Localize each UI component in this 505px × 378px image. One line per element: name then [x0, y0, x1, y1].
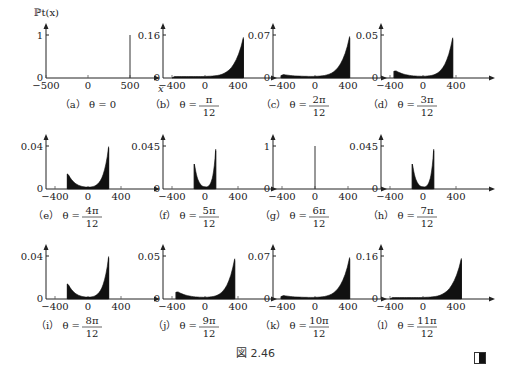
probability-distribution — [67, 147, 108, 189]
y-tick-label: 0 — [37, 293, 43, 304]
theta-numerator: 2π — [313, 94, 326, 105]
theta-numerator: 10π — [309, 315, 329, 326]
y-axis-arrow-icon — [271, 23, 276, 29]
y-axis-arrow-icon — [271, 134, 276, 140]
x-tick-label: 400 — [228, 191, 247, 202]
x-axis-arrow-icon — [489, 187, 495, 192]
theta-denominator: 12 — [86, 328, 99, 339]
panel-caption: （c） θ = — [261, 99, 307, 110]
panel-caption: （b） θ = — [150, 99, 197, 110]
y-tick-label: 0 — [264, 183, 270, 194]
panel-caption: （l） θ = — [371, 320, 415, 331]
y-tick-label: 0.07 — [248, 251, 270, 262]
x-tick-label: −400 — [376, 301, 403, 312]
x-tick-label: −400 — [158, 301, 185, 312]
x-tick-label: 0 — [202, 301, 208, 312]
probability-distribution — [194, 149, 215, 189]
y-tick-label: 0 — [264, 293, 270, 304]
figure-canvas: −500050001（a） θ = 0−400040000.16（b） θ =π… — [0, 0, 505, 378]
theta-denominator: 12 — [86, 218, 99, 229]
theta-denominator: 12 — [421, 107, 434, 118]
x-tick-label: 0 — [420, 301, 426, 312]
theta-denominator: 12 — [203, 107, 216, 118]
panel-caption: （g） θ = — [260, 210, 307, 221]
y-axis-arrow-icon — [44, 23, 49, 29]
theta-denominator: 12 — [313, 328, 326, 339]
theta-numerator: 8π — [86, 315, 99, 326]
y-tick-label: 0.045 — [349, 141, 378, 152]
y-tick-label: 0 — [372, 293, 378, 304]
panel-caption: （j） θ = — [153, 320, 197, 331]
panel-h: −400040000.045（h） θ =7π12 — [349, 134, 495, 229]
y-axis-arrow-icon — [161, 244, 166, 250]
probability-distribution — [281, 37, 349, 78]
panel-caption: （a） θ = 0 — [60, 99, 116, 110]
probability-distribution — [172, 38, 243, 79]
y-axis-arrow-icon — [379, 134, 384, 140]
y-axis-arrow-icon — [44, 244, 49, 250]
x-tick-label: −400 — [158, 191, 185, 202]
x-tick-label: 0 — [85, 191, 91, 202]
x-tick-label: −400 — [41, 191, 68, 202]
y-tick-label: 0 — [372, 183, 378, 194]
theta-numerator: 4π — [86, 205, 99, 216]
x-tick-label: 0 — [202, 191, 208, 202]
y-tick-label: 0.04 — [21, 141, 43, 152]
y-axis-arrow-icon — [271, 244, 276, 250]
y-tick-label: 0 — [37, 183, 43, 194]
panel-caption: （h） θ = — [368, 210, 415, 221]
panel-caption: （d） θ = — [368, 99, 415, 110]
y-tick-label: 0.07 — [248, 30, 270, 41]
x-tick-label: 400 — [111, 191, 130, 202]
end-of-section-icon — [474, 352, 486, 364]
panel-l: −400040000.16（l） θ =11π12 — [356, 244, 495, 339]
x-axis-arrow-icon — [489, 297, 495, 302]
y-tick-label: 0.05 — [138, 251, 160, 262]
y-axis-label: ℙt(x) — [34, 7, 59, 18]
y-tick-label: 0.04 — [21, 251, 43, 262]
panel-caption: （i） θ = — [36, 320, 80, 331]
x-tick-label: −400 — [268, 191, 295, 202]
x-tick-label: 0 — [420, 80, 426, 91]
y-tick-label: 0.05 — [356, 30, 378, 41]
theta-denominator: 12 — [203, 218, 216, 229]
x-tick-label: −400 — [376, 191, 403, 202]
y-axis-arrow-icon — [44, 134, 49, 140]
probability-distribution — [281, 258, 349, 299]
theta-numerator: 6π — [313, 205, 326, 216]
theta-denominator: 12 — [203, 328, 216, 339]
x-tick-label: 400 — [446, 191, 465, 202]
theta-numerator: 9π — [203, 315, 216, 326]
y-tick-label: 0 — [372, 72, 378, 83]
panel-caption: （k） θ = — [260, 320, 307, 331]
y-axis-arrow-icon — [161, 23, 166, 29]
x-tick-label: −400 — [268, 80, 295, 91]
x-tick-label: 0 — [312, 80, 318, 91]
y-tick-label: 0 — [264, 72, 270, 83]
theta-denominator: 12 — [421, 218, 434, 229]
x-tick-label: 400 — [338, 301, 357, 312]
y-tick-label: 0 — [154, 293, 160, 304]
y-tick-label: 1 — [264, 141, 270, 152]
theta-numerator: π — [206, 94, 213, 105]
theta-numerator: 7π — [421, 205, 434, 216]
x-tick-label: 400 — [338, 191, 357, 202]
x-tick-label: 0 — [420, 191, 426, 202]
x-tick-label: 400 — [228, 80, 247, 91]
probability-distribution — [412, 149, 433, 189]
panel-d: −400040000.05（d） θ =3π12 — [356, 23, 495, 118]
y-tick-label: 0 — [154, 72, 160, 83]
panel-f: −400040000.045（f） θ =5π12 — [131, 134, 277, 229]
y-tick-label: 1 — [37, 30, 43, 41]
x-axis-label: x — [158, 83, 164, 94]
x-axis-arrow-icon — [489, 76, 495, 81]
y-axis-arrow-icon — [161, 134, 166, 140]
y-axis-arrow-icon — [379, 23, 384, 29]
x-tick-label: 400 — [446, 80, 465, 91]
x-tick-label: 400 — [228, 301, 247, 312]
x-tick-label: 500 — [120, 80, 139, 91]
y-axis-arrow-icon — [379, 244, 384, 250]
x-tick-label: −400 — [268, 301, 295, 312]
theta-denominator: 12 — [313, 218, 326, 229]
probability-distribution — [390, 259, 461, 300]
